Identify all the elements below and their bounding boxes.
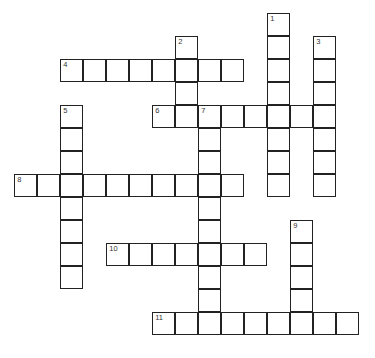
crossword-cell[interactable]: 8 — [14, 174, 37, 197]
crossword-cell[interactable] — [60, 243, 83, 266]
crossword-cell[interactable] — [83, 59, 106, 82]
crossword-cell[interactable] — [152, 174, 175, 197]
crossword-cell[interactable] — [198, 197, 221, 220]
crossword-cell[interactable] — [198, 243, 221, 266]
crossword-cell[interactable] — [175, 174, 198, 197]
crossword-cell[interactable] — [244, 312, 267, 335]
crossword-cell[interactable] — [198, 174, 221, 197]
crossword-cell[interactable] — [313, 82, 336, 105]
crossword-cell[interactable] — [290, 266, 313, 289]
crossword-cell[interactable] — [60, 174, 83, 197]
crossword-cell[interactable] — [198, 151, 221, 174]
crossword-cell[interactable] — [244, 243, 267, 266]
crossword-cell[interactable] — [267, 128, 290, 151]
crossword-cell[interactable] — [60, 266, 83, 289]
clue-number: 10 — [109, 244, 117, 253]
crossword-cell[interactable] — [267, 312, 290, 335]
crossword-cell[interactable] — [313, 312, 336, 335]
crossword-cell[interactable] — [267, 59, 290, 82]
crossword-cell[interactable] — [221, 105, 244, 128]
clue-number: 4 — [63, 60, 67, 69]
crossword-cell[interactable] — [198, 128, 221, 151]
crossword-cell[interactable] — [152, 59, 175, 82]
crossword-cell[interactable] — [60, 128, 83, 151]
crossword-cell[interactable] — [267, 105, 290, 128]
crossword-cell[interactable] — [60, 220, 83, 243]
crossword-cell[interactable] — [313, 105, 336, 128]
crossword-cell[interactable]: 3 — [313, 36, 336, 59]
crossword-cell[interactable] — [198, 312, 221, 335]
clue-number: 11 — [155, 313, 163, 322]
crossword-cell[interactable] — [129, 243, 152, 266]
crossword-cell[interactable] — [313, 174, 336, 197]
clue-number: 1 — [270, 14, 274, 23]
crossword-grid: 1234567891011 — [0, 0, 375, 358]
crossword-cell[interactable] — [267, 151, 290, 174]
crossword-cell[interactable] — [267, 82, 290, 105]
crossword-cell[interactable] — [152, 243, 175, 266]
crossword-cell[interactable]: 4 — [60, 59, 83, 82]
clue-number: 5 — [63, 106, 67, 115]
clue-number: 9 — [293, 221, 297, 230]
crossword-cell[interactable] — [313, 151, 336, 174]
crossword-cell[interactable] — [221, 312, 244, 335]
crossword-cell[interactable] — [267, 36, 290, 59]
crossword-cell[interactable] — [290, 105, 313, 128]
crossword-cell[interactable]: 7 — [198, 105, 221, 128]
crossword-cell[interactable] — [106, 59, 129, 82]
crossword-cell[interactable] — [198, 59, 221, 82]
crossword-cell[interactable] — [198, 220, 221, 243]
crossword-cell[interactable] — [267, 174, 290, 197]
clue-number: 2 — [178, 37, 182, 46]
crossword-cell[interactable] — [290, 312, 313, 335]
crossword-cell[interactable] — [221, 243, 244, 266]
crossword-cell[interactable]: 10 — [106, 243, 129, 266]
crossword-cell[interactable] — [198, 289, 221, 312]
crossword-cell[interactable] — [313, 59, 336, 82]
crossword-cell[interactable] — [37, 174, 60, 197]
crossword-cell[interactable] — [221, 59, 244, 82]
crossword-cell[interactable]: 5 — [60, 105, 83, 128]
clue-number: 6 — [155, 106, 159, 115]
crossword-cell[interactable] — [290, 243, 313, 266]
crossword-cell[interactable]: 2 — [175, 36, 198, 59]
crossword-cell[interactable] — [198, 266, 221, 289]
crossword-cell[interactable] — [336, 312, 359, 335]
crossword-cell[interactable] — [313, 128, 336, 151]
crossword-cell[interactable] — [60, 151, 83, 174]
crossword-cell[interactable] — [221, 174, 244, 197]
clue-number: 3 — [316, 37, 320, 46]
crossword-cell[interactable] — [106, 174, 129, 197]
crossword-cell[interactable]: 6 — [152, 105, 175, 128]
crossword-cell[interactable] — [290, 289, 313, 312]
crossword-cell[interactable] — [129, 174, 152, 197]
crossword-cell[interactable]: 1 — [267, 13, 290, 36]
crossword-cell[interactable] — [60, 197, 83, 220]
crossword-cell[interactable] — [83, 174, 106, 197]
crossword-cell[interactable] — [175, 59, 198, 82]
crossword-cell[interactable] — [175, 105, 198, 128]
crossword-cell[interactable] — [175, 312, 198, 335]
crossword-cell[interactable] — [175, 243, 198, 266]
clue-number: 8 — [17, 175, 21, 184]
crossword-cell[interactable] — [129, 59, 152, 82]
crossword-cell[interactable] — [175, 82, 198, 105]
crossword-cell[interactable] — [244, 105, 267, 128]
crossword-cell[interactable]: 9 — [290, 220, 313, 243]
clue-number: 7 — [201, 106, 205, 115]
crossword-cell[interactable]: 11 — [152, 312, 175, 335]
